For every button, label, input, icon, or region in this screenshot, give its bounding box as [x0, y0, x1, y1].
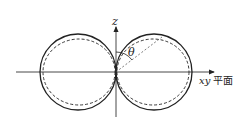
- xy-plane-var: xy: [199, 75, 210, 86]
- theta-label: θ: [128, 47, 135, 58]
- xy-plane-text: 平面: [213, 75, 233, 86]
- xy-plane-label: xy 平面: [199, 76, 233, 86]
- z-axis-label: z: [112, 16, 118, 27]
- diagram-canvas: [0, 0, 246, 124]
